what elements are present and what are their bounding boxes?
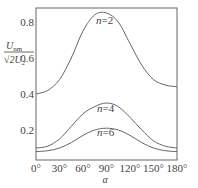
y-tick-label: 0.2 [20,124,34,136]
x-tick-label: 30° [52,162,67,174]
x-tick-label: 90° [99,162,114,174]
x-tick-label: 120° [120,162,141,174]
svg-text:Unm: Unm [6,40,23,53]
y-axis-ticks: 0.20.40.60.8 [20,16,34,136]
x-tick-label: 60° [75,162,90,174]
series-labels: n=2n=4n=6 [96,14,115,138]
x-tick-label: 150° [143,162,164,174]
x-axis-ticks: 0°30°60°90°120°150°180° [31,162,187,174]
x-tick-label: 180° [167,162,188,174]
series-label: n=4 [97,102,115,114]
series-label: n=6 [97,126,115,138]
chart: 0.20.40.60.8 0°30°60°90°120°150°180° n=2… [0,0,198,188]
x-tick-label: 0° [31,162,41,174]
y-tick-label: 0.8 [20,16,34,28]
x-axis-label: α [102,174,108,185]
series-label: n=2 [96,14,113,26]
y-tick-label: 0.4 [20,88,34,100]
